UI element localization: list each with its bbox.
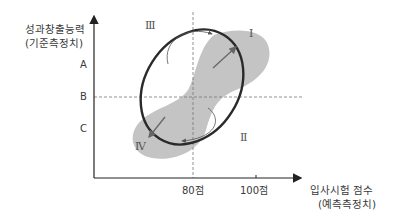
x-axis-title-line2: (예측측정치): [318, 198, 376, 210]
level-b-label: B: [80, 91, 87, 103]
tick-80-label: 80점: [182, 185, 204, 197]
tick-100-label: 100점: [240, 185, 268, 197]
quadrant-1-label: Ⅰ: [249, 27, 253, 40]
y-axis-title-line1: 성과창출능력: [25, 23, 85, 35]
level-c-label: C: [80, 123, 87, 135]
quadrant-2-label: Ⅱ: [240, 131, 247, 144]
level-a-label: A: [80, 59, 87, 71]
quadrant-4-label: Ⅳ: [135, 140, 146, 153]
x-axis-title-line1: 입사시험 점수: [310, 184, 373, 196]
y-axis-title-line2: (기준측정치): [25, 37, 83, 49]
quadrant-3-label: Ⅲ: [145, 19, 156, 32]
